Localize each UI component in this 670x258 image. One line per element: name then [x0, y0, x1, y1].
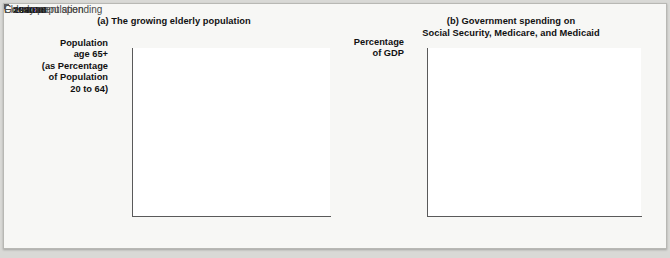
panel-b-title-line: Social Security, Medicare, and Medicaid [366, 28, 656, 40]
panel-b-line-chart [427, 48, 641, 216]
panel-b-title: (b) Government spending on Social Securi… [366, 16, 656, 39]
y-axis-label-line: 20 to 64) [12, 84, 108, 95]
panel-b-y-axis [427, 48, 428, 217]
panel-b-y-axis-label: Percentage of GDP [326, 37, 404, 60]
y-axis-label-line: Percentage [326, 37, 404, 48]
panel-b-title-line: (b) Government spending on [366, 16, 656, 28]
panel-b-x-axis [427, 216, 642, 217]
panel-a-x-axis [132, 216, 331, 217]
panel-b-plot-area [427, 48, 641, 216]
chart-annotation-label: Government spending [4, 4, 102, 15]
y-axis-label-line: of GDP [326, 48, 404, 59]
annotation-leader-line [4, 4, 204, 84]
figure-container: (a) The growing elderly population Popul… [3, 3, 667, 249]
